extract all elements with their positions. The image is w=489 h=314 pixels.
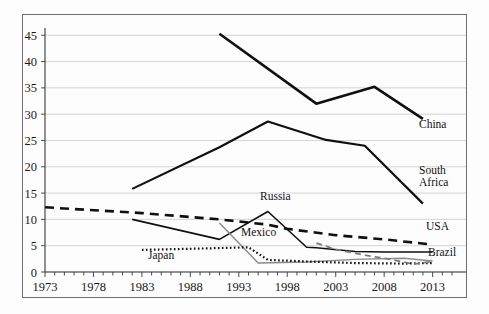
x-tick-label-1983: 1983 xyxy=(129,280,154,294)
series-label-russia: Russia xyxy=(260,190,291,202)
chart-frame xyxy=(23,15,467,298)
plot-border xyxy=(23,15,467,298)
x-tick-label-1978: 1978 xyxy=(81,280,106,294)
series-label-south-africa: South xyxy=(419,164,446,176)
y-tick-label-15: 15 xyxy=(25,187,38,201)
series-line-china xyxy=(219,34,423,119)
y-tick-label-45: 45 xyxy=(25,29,38,43)
series-line-japan xyxy=(142,247,433,263)
data-series xyxy=(45,34,433,264)
series-line-usa xyxy=(45,207,433,244)
series-label-usa: USA xyxy=(426,220,450,232)
y-tick-label-20: 20 xyxy=(25,160,38,174)
x-tick-label-1988: 1988 xyxy=(178,280,203,294)
series-label-japan: Japan xyxy=(148,249,174,262)
x-tick-label-2013: 2013 xyxy=(420,280,445,294)
y-tick-label-35: 35 xyxy=(25,81,38,95)
y-tick-label-40: 40 xyxy=(25,55,38,69)
y-tick-label-25: 25 xyxy=(25,134,38,148)
y-tick-label-30: 30 xyxy=(25,108,38,122)
x-axis-tick-labels: 197319781983198819931998200320082013 xyxy=(33,280,446,294)
line-chart-svg: 051015202530354045 197319781983198819931… xyxy=(0,0,489,314)
y-tick-label-5: 5 xyxy=(31,239,37,253)
series-label-china: China xyxy=(419,118,446,130)
y-tick-label-10: 10 xyxy=(25,213,38,227)
x-tick-label-1998: 1998 xyxy=(275,280,300,294)
series-label-south-africa: Africa xyxy=(419,176,448,188)
y-axis-tick-labels: 051015202530354045 xyxy=(25,29,38,280)
series-label-mexico: Mexico xyxy=(241,226,276,238)
x-tick-label-1973: 1973 xyxy=(33,280,58,294)
x-tick-label-2008: 2008 xyxy=(372,280,397,294)
x-tick-label-2003: 2003 xyxy=(323,280,348,294)
series-label-brazil: Brazil xyxy=(428,246,456,258)
x-tick-label-1993: 1993 xyxy=(226,280,251,294)
y-tick-label-0: 0 xyxy=(31,266,37,280)
chart-figure: 051015202530354045 197319781983198819931… xyxy=(0,0,489,314)
